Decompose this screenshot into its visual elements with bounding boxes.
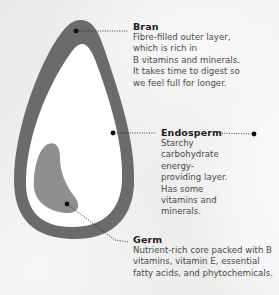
germ-title: Germ <box>133 234 279 245</box>
germ-line: fatty acids, and phytochemicals. <box>133 268 279 279</box>
bran-line: It takes time to digest so <box>133 66 278 77</box>
germ-marker-dot <box>65 202 70 207</box>
bran-line: B vitamins and minerals. <box>133 55 278 66</box>
germ-description: Nutrient-rich core packed with B vitamin… <box>133 245 279 279</box>
endosperm-line: carbohydrate <box>161 149 236 160</box>
endosperm-marker-dot <box>111 131 116 136</box>
endosperm-line: vitamins and <box>161 195 236 206</box>
endosperm-right-marker-dot <box>252 132 257 137</box>
endosperm-description: Starchy carbohydrate energy- providing l… <box>161 138 236 218</box>
bran-line: which is rich in <box>133 43 278 54</box>
germ-line: Nutrient-rich core packed with B <box>133 245 279 256</box>
endosperm-title: Endosperm <box>161 127 236 138</box>
endosperm-line: Has some <box>161 184 236 195</box>
bran-line: Fibre-filled outer layer, <box>133 32 278 43</box>
bran-title: Bran <box>133 21 278 32</box>
bran-callout: Bran Fibre-filled outer layer, which is … <box>133 21 278 89</box>
bran-marker-dot <box>74 29 79 34</box>
bran-line: we feel full for longer. <box>133 78 278 89</box>
endosperm-line: minerals. <box>161 206 236 217</box>
endosperm-callout: Endosperm Starchy carbohydrate energy- p… <box>161 127 236 218</box>
endosperm-line: providing layer. <box>161 172 236 183</box>
bran-description: Fibre-filled outer layer, which is rich … <box>133 32 278 89</box>
germ-line: vitamins, vitamin E, essential <box>133 256 279 267</box>
endosperm-line: energy- <box>161 161 236 172</box>
germ-callout: Germ Nutrient-rich core packed with B vi… <box>133 234 279 279</box>
endosperm-line: Starchy <box>161 138 236 149</box>
